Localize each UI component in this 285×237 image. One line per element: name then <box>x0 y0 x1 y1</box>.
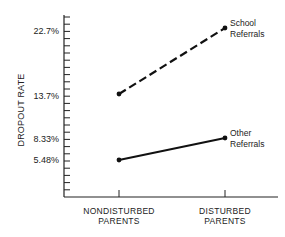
y-axis-title: DROPOUT RATE <box>16 73 26 146</box>
x-category-labels: NONDISTURBED PARENTS DISTURBED PARENTS <box>83 206 251 226</box>
category-label-disturbed-line2: PARENTS <box>204 216 246 226</box>
data-point <box>117 92 122 97</box>
y-axis-minor-ticks <box>64 17 70 190</box>
y-tick-label: 8.33% <box>33 134 59 144</box>
category-label-nondisturbed-line1: NONDISTURBED <box>83 206 155 216</box>
other-referrals-line <box>119 138 225 160</box>
category-label-nondisturbed-line2: PARENTS <box>98 216 140 226</box>
data-point <box>223 26 228 31</box>
category-label-disturbed-line1: DISTURBED <box>199 206 251 216</box>
series-other-referrals: Other Referrals <box>117 128 265 162</box>
data-point <box>117 158 122 163</box>
y-tick-label: 22.7% <box>33 26 59 36</box>
series-label-other-line1: Other <box>230 128 251 138</box>
y-tick-labels: 22.7% 13.7% 8.33% 5.48% <box>33 26 59 165</box>
y-axis <box>64 15 70 197</box>
school-referrals-line <box>119 28 225 94</box>
y-tick-label: 5.48% <box>33 155 59 165</box>
line-chart: 22.7% 13.7% 8.33% 5.48% DROPOUT RATE NON… <box>0 0 285 237</box>
series-school-referrals: School Referrals <box>117 18 265 96</box>
series-label-school-line1: School <box>230 18 256 28</box>
series-label-school-line2: Referrals <box>230 29 264 39</box>
data-point <box>223 136 228 141</box>
series-label-other-line2: Referrals <box>230 139 264 149</box>
x-axis <box>64 190 278 197</box>
y-tick-label: 13.7% <box>33 91 59 101</box>
